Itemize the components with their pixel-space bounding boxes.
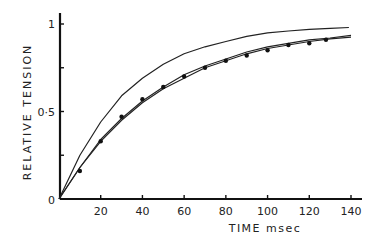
curve-2: [59, 35, 351, 199]
data-point: [140, 97, 144, 101]
y-axis-label: RELATIVE TENSION: [21, 44, 34, 181]
x-tick-label: 80: [219, 205, 233, 218]
data-point: [119, 115, 123, 119]
data-point: [265, 48, 269, 52]
origin-label: 0: [48, 194, 55, 207]
x-tick-label: 140: [341, 205, 362, 218]
data-point: [286, 43, 290, 47]
tension-chart: 204060801001201400·510TIME msecRELATIVE …: [0, 0, 383, 244]
data-point: [245, 53, 249, 57]
data-point: [307, 41, 311, 45]
data-point: [161, 85, 165, 89]
curve-3: [59, 37, 351, 199]
data-point: [78, 169, 82, 173]
x-tick-label: 20: [94, 205, 108, 218]
data-point: [224, 59, 228, 63]
data-point: [203, 66, 207, 70]
x-tick-label: 100: [257, 205, 278, 218]
data-point: [324, 38, 328, 42]
y-tick-label: 0·5: [38, 106, 56, 119]
x-tick-label: 120: [299, 205, 320, 218]
data-point: [99, 139, 103, 143]
y-tick-label: 1: [48, 18, 55, 31]
x-tick-label: 40: [135, 205, 149, 218]
x-tick-label: 60: [177, 205, 191, 218]
x-axis-label: TIME msec: [228, 222, 302, 235]
data-point: [182, 74, 186, 78]
curve-1: [59, 28, 349, 200]
